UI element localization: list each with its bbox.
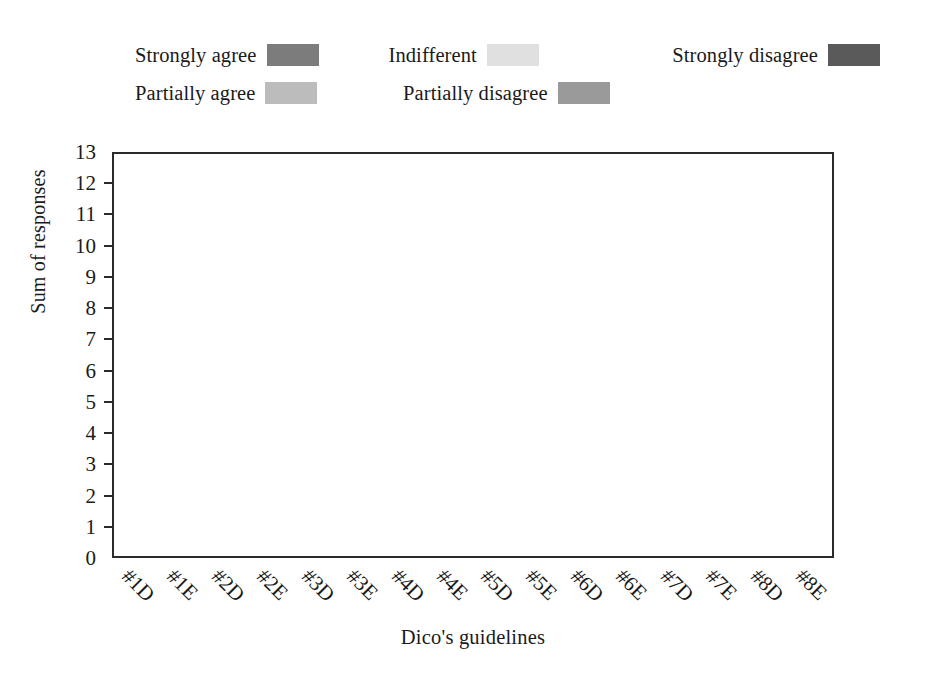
- x-tick-slot: #1D: [114, 560, 159, 630]
- y-tick-label-13: 13: [46, 142, 96, 163]
- bar-slot-g2D[interactable]: [204, 154, 249, 558]
- x-tick-slot: #5E: [518, 560, 563, 630]
- bar-slot-g3E[interactable]: [338, 154, 383, 558]
- bar-slot-g6D[interactable]: [563, 154, 608, 558]
- x-tick-label-g6D: #6D: [566, 564, 609, 607]
- x-tick-slot: #7E: [697, 560, 742, 630]
- y-tick-label-3: 3: [46, 454, 96, 475]
- y-axis-tick-labels: 012345678910111213: [48, 0, 96, 673]
- bar-slot-g6E[interactable]: [608, 154, 653, 558]
- x-tick-label-g1D: #1D: [117, 564, 160, 607]
- x-tick-slot: #5D: [473, 560, 518, 630]
- x-tick-label-g6E: #6E: [610, 564, 652, 606]
- x-axis-tick-labels: #1D#1E#2D#2E#3D#3E#4D#4E#5D#5E#6D#6E#7D#…: [114, 560, 832, 630]
- y-tick-label-4: 4: [46, 423, 96, 444]
- y-tick-label-0: 0: [46, 548, 96, 569]
- y-tick-label-10: 10: [46, 235, 96, 256]
- x-tick-slot: #4D: [383, 560, 428, 630]
- bar-slot-g2E[interactable]: [249, 154, 294, 558]
- x-tick-label-g5D: #5D: [476, 564, 519, 607]
- bar-slot-g1E[interactable]: [159, 154, 204, 558]
- bar-slot-g4D[interactable]: [383, 154, 428, 558]
- bar-slot-g5E[interactable]: [518, 154, 563, 558]
- x-tick-slot: #3E: [338, 560, 383, 630]
- y-tick-label-7: 7: [46, 329, 96, 350]
- x-tick-slot: #2D: [204, 560, 249, 630]
- bar-slot-g5D[interactable]: [473, 154, 518, 558]
- y-tick-label-1: 1: [46, 516, 96, 537]
- bar-slot-g1D[interactable]: [114, 154, 159, 558]
- x-tick-label-g8E: #8E: [790, 564, 832, 606]
- x-tick-slot: #3D: [294, 560, 339, 630]
- x-tick-slot: #6E: [608, 560, 653, 630]
- x-tick-label-g3E: #3E: [341, 564, 383, 606]
- bar-slot-g8E[interactable]: [787, 154, 832, 558]
- x-tick-label-g1E: #1E: [162, 564, 204, 606]
- bar-slot-g7E[interactable]: [697, 154, 742, 558]
- x-tick-label-g5E: #5E: [521, 564, 563, 606]
- x-tick-slot: #1E: [159, 560, 204, 630]
- bar-slot-g8D[interactable]: [742, 154, 787, 558]
- x-tick-slot: #8E: [787, 560, 832, 630]
- x-tick-label-g2D: #2D: [207, 564, 250, 607]
- x-tick-label-g3D: #3D: [296, 564, 339, 607]
- x-tick-label-g4D: #4D: [386, 564, 429, 607]
- chart-root: Strongly agree Indifferent Strongly disa…: [0, 0, 949, 673]
- y-tick-label-5: 5: [46, 391, 96, 412]
- x-tick-label-g7D: #7D: [655, 564, 698, 607]
- x-axis-title: Dico's guidelines: [112, 626, 834, 649]
- y-tick-label-2: 2: [46, 485, 96, 506]
- y-tick-label-12: 12: [46, 173, 96, 194]
- y-tick-label-11: 11: [46, 204, 96, 225]
- x-tick-label-g7E: #7E: [700, 564, 742, 606]
- y-tick-label-6: 6: [46, 360, 96, 381]
- x-tick-label-g2E: #2E: [251, 564, 293, 606]
- x-tick-label-g4E: #4E: [431, 564, 473, 606]
- bar-slot-g3D[interactable]: [294, 154, 339, 558]
- x-tick-slot: #2E: [249, 560, 294, 630]
- x-tick-slot: #4E: [428, 560, 473, 630]
- bar-slot-g4E[interactable]: [428, 154, 473, 558]
- x-tick-slot: #8D: [742, 560, 787, 630]
- bar-series-container: [114, 154, 832, 558]
- x-tick-slot: #7D: [653, 560, 698, 630]
- x-tick-slot: #6D: [563, 560, 608, 630]
- x-tick-label-g8D: #8D: [745, 564, 788, 607]
- y-tick-label-8: 8: [46, 298, 96, 319]
- bar-slot-g7D[interactable]: [653, 154, 698, 558]
- plot-area-wrapper: Sum of responses 012345678910111213 #1D#…: [0, 0, 949, 673]
- y-tick-label-9: 9: [46, 266, 96, 287]
